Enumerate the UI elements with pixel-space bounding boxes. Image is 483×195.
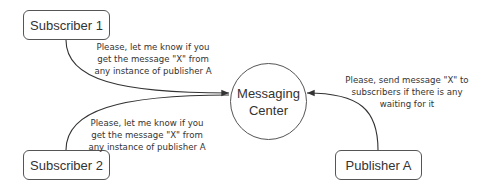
subscriber-2-label: Subscriber 2 xyxy=(30,158,103,173)
subscriber-2-node: Subscriber 2 xyxy=(23,150,110,180)
note-line: any instance of publisher A xyxy=(84,141,210,153)
messaging-center-label-line2: Center xyxy=(237,102,300,119)
messaging-center-label-line1: Messaging xyxy=(237,85,300,102)
note-line: waiting for it xyxy=(344,98,470,110)
pubsub-diagram: Subscriber 1 Subscriber 2 Messaging Cent… xyxy=(0,0,483,195)
note-line: any instance of publisher A xyxy=(90,65,216,77)
publisher-a-node: Publisher A xyxy=(335,150,422,180)
subscriber-1-note: Please, let me know if you get the messa… xyxy=(90,41,216,77)
note-line: Please, let me know if you xyxy=(84,117,210,129)
note-line: subscribers if there is any xyxy=(344,86,470,98)
note-line: get the message "X" from xyxy=(84,129,210,141)
note-line: Please, send message "X" to xyxy=(344,74,470,86)
publisher-a-label: Publisher A xyxy=(346,158,412,173)
subscriber-2-note: Please, let me know if you get the messa… xyxy=(84,117,210,153)
note-line: get the message "X" from xyxy=(90,53,216,65)
subscriber-1-label: Subscriber 1 xyxy=(30,18,103,33)
messaging-center-node: Messaging Center xyxy=(230,63,307,140)
publisher-note: Please, send message "X" to subscribers … xyxy=(344,74,470,110)
subscriber-1-node: Subscriber 1 xyxy=(23,10,110,40)
note-line: Please, let me know if you xyxy=(90,41,216,53)
